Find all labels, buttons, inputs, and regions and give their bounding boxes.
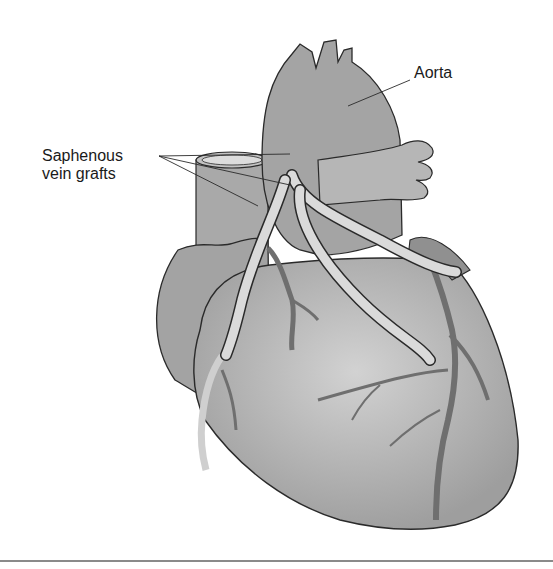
saphenous-vein-grafts-label: Saphenous vein grafts bbox=[42, 147, 162, 183]
grafts-label-line1: Saphenous bbox=[42, 147, 162, 165]
grafts-label-line2: vein grafts bbox=[42, 165, 162, 183]
heart-bypass-diagram: Aorta Saphenous vein grafts bbox=[0, 0, 553, 569]
heart-illustration bbox=[0, 0, 553, 569]
aorta-label: Aorta bbox=[414, 64, 452, 82]
aorta bbox=[262, 40, 402, 255]
bottom-divider bbox=[0, 560, 553, 562]
